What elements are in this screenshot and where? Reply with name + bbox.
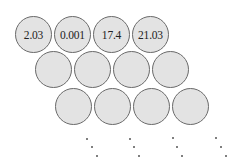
circle-r3-c2 [94,88,131,125]
circle-r2-c1 [35,51,72,88]
circle-r2-c4 [152,51,189,88]
circle-r1-c4: 21.03 [132,16,169,53]
ellipsis-dot [225,155,227,157]
circle-r1-c2: 0.001 [54,16,91,53]
ellipsis-dot [176,146,178,148]
circle-r3-c4 [172,88,209,125]
circle-r2-c2 [74,51,111,88]
circle-r3-c3 [133,88,170,125]
ellipsis-dot [138,155,140,157]
ellipsis-dot [172,137,174,139]
circle-r1-c3: 17.4 [93,16,130,53]
ellipsis-dot [86,138,88,140]
ellipsis-dot [215,137,217,139]
ellipsis-dot [133,146,135,148]
ellipsis-dot [129,138,131,140]
ellipsis-dot [181,155,183,157]
ellipsis-dot [220,146,222,148]
circle-r2-c3 [113,51,150,88]
ellipsis-dot [91,146,93,148]
circle-r3-c1 [55,88,92,125]
circle-r1-c1: 2.03 [15,16,52,53]
ellipsis-dot [96,155,98,157]
